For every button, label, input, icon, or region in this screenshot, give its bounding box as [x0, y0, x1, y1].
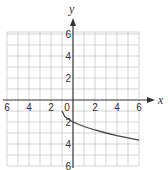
y-tick-label: 4	[65, 139, 71, 150]
y-tick-label: 4	[65, 51, 71, 62]
x-tick-label: 2	[92, 102, 98, 113]
y-tick-label: 2	[65, 73, 71, 84]
x-axis-arrow-icon	[147, 97, 155, 103]
x-tick-label: 4	[114, 102, 120, 113]
x-tick-label: 6	[136, 102, 142, 113]
coordinate-plane: 6420246642246 x y	[0, 0, 168, 170]
y-axis-arrow-icon	[70, 18, 76, 26]
y-tick-label: 6	[65, 29, 71, 40]
x-tick-label: 2	[48, 102, 54, 113]
x-axis-label: x	[157, 93, 164, 107]
x-tick-label: 6	[4, 102, 10, 113]
axes	[3, 18, 155, 168]
y-tick-label: 6	[65, 161, 71, 170]
x-tick-label: 0	[64, 102, 70, 113]
y-axis-label: y	[68, 2, 75, 16]
x-tick-label: 4	[26, 102, 32, 113]
